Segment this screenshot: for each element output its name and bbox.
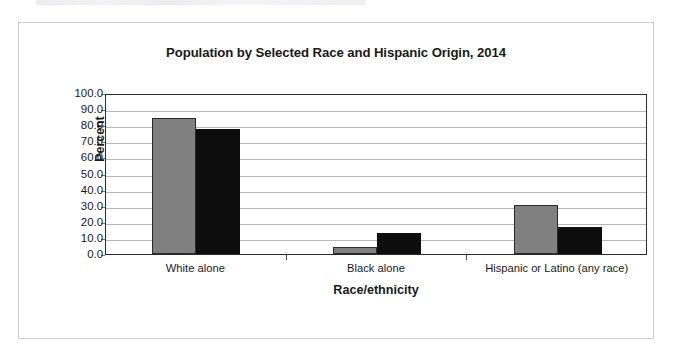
chart-card: Population by Selected Race and Hispanic…: [18, 22, 654, 339]
y-tick-label: 70.0: [51, 135, 103, 147]
x-tick-label: White alone: [166, 262, 225, 274]
x-tick-mark: [466, 255, 467, 260]
cropped-text-sliver: [36, 0, 366, 5]
y-tick-label: 30.0: [51, 200, 103, 212]
bar-united-states-hispanic-or-latino-any-race-: [558, 227, 602, 254]
gridline: [106, 111, 646, 112]
bar-united-states-white-alone: [196, 129, 240, 254]
bar-united-states-black-alone: [377, 233, 421, 254]
x-axis-title: Race/ethnicity: [105, 283, 647, 297]
bar-arizona-white-alone: [152, 118, 196, 254]
y-tick-label: 60.0: [51, 151, 103, 163]
bar-arizona-black-alone: [333, 247, 377, 254]
y-tick-label: 0.0: [51, 248, 103, 260]
chart-title: Population by Selected Race and Hispanic…: [19, 45, 653, 60]
bar-arizona-hispanic-or-latino-any-race-: [514, 205, 558, 254]
y-tick-label: 40.0: [51, 184, 103, 196]
y-tick-label: 20.0: [51, 216, 103, 228]
plot-wrapper: Percent 0.010.020.030.040.050.060.070.08…: [105, 94, 647, 255]
y-tick-label: 50.0: [51, 168, 103, 180]
x-tick-mark: [286, 255, 287, 260]
y-tick-label: 10.0: [51, 232, 103, 244]
plot-area: [105, 94, 647, 255]
x-tick-label: Black alone: [347, 262, 405, 274]
x-tick-label: Hispanic or Latino (any race): [485, 262, 628, 274]
y-tick-label: 100.0: [51, 87, 103, 99]
y-tick-label: 90.0: [51, 103, 103, 115]
y-tick-label: 80.0: [51, 119, 103, 131]
